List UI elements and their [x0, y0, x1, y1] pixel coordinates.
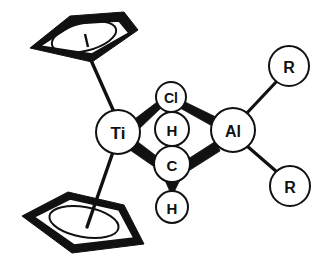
atom-label-al: Al [225, 123, 241, 140]
atom-label-r-bottom: R [284, 179, 296, 196]
atom-node-al[interactable]: Al [211, 108, 255, 152]
atom-node-h-bottom[interactable]: H [156, 191, 188, 223]
atom-label-cl: Cl [164, 90, 178, 106]
atom-node-c[interactable]: C [154, 146, 190, 182]
atom-node-cl[interactable]: Cl [156, 82, 186, 112]
atom-node-r-bottom[interactable]: R [270, 166, 310, 206]
bond-al-to-r-bottom [247, 146, 277, 172]
cyclopentadienyl-ring-bottom [22, 192, 144, 253]
cyclopentadienyl-ring-top [30, 12, 138, 62]
figure-canvas: Ti Cl H C H Al R R [0, 0, 330, 261]
atom-node-r-top[interactable]: R [269, 46, 309, 86]
atom-label-h-bottom: H [167, 200, 178, 217]
atom-label-c: C [167, 157, 178, 174]
atom-label-h-top: H [167, 122, 178, 139]
atom-node-ti[interactable]: Ti [96, 110, 140, 154]
atom-label-r-top: R [283, 59, 295, 76]
bond-al-to-r-top [246, 81, 277, 114]
bond-cp-top-to-ti [90, 58, 114, 112]
chemical-structure-diagram: Ti Cl H C H Al R R [0, 0, 330, 261]
atom-node-h-top[interactable]: H [155, 112, 189, 146]
bond-c-to-al [188, 141, 220, 170]
atom-label-ti: Ti [111, 124, 126, 143]
